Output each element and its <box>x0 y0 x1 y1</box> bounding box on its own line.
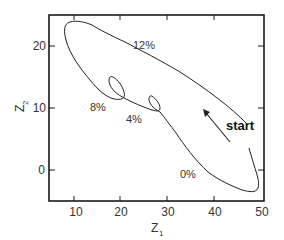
annotation-4-percent: 4% <box>126 113 142 125</box>
plot-frame <box>49 15 264 201</box>
x-tick-label-30: 30 <box>161 205 175 219</box>
y-tick-label-20: 20 <box>33 39 47 53</box>
annotation-start: start <box>226 118 255 133</box>
x-tick-label-10: 10 <box>69 205 83 219</box>
y-ticks <box>49 46 264 170</box>
svg-text:Z: Z <box>151 221 158 235</box>
chart-figure: 10 20 30 40 50 0 10 20 Z 1 Z 2 12% 8% 4%… <box>0 0 284 240</box>
annotation-8-percent: 8% <box>90 101 106 113</box>
y-axis-label: Z 2 <box>13 100 30 112</box>
y-tick-label-10: 10 <box>33 101 47 115</box>
svg-text:1: 1 <box>159 229 164 238</box>
annotation-12-percent: 12% <box>133 39 155 51</box>
x-tick-label-20: 20 <box>114 205 128 219</box>
x-tick-label-50: 50 <box>255 205 269 219</box>
svg-text:2: 2 <box>21 100 30 105</box>
annotation-0-percent: 0% <box>180 168 196 180</box>
y-tick-label-0: 0 <box>38 163 45 177</box>
x-axis-label: Z 1 <box>151 221 164 238</box>
x-tick-label-40: 40 <box>208 205 222 219</box>
